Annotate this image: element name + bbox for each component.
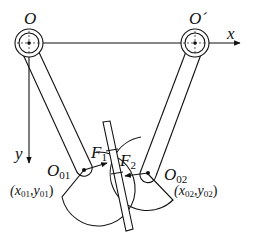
coord2-sub1: 02 (185, 189, 194, 199)
label-y-axis: y (15, 145, 23, 162)
coord1-sub1: 01 (21, 189, 30, 199)
coord2-mid: ,y (194, 183, 204, 198)
pivot-o-joint (15, 29, 43, 57)
force-f1-arrow (84, 163, 107, 170)
right-link (140, 49, 203, 183)
pivot-o-prime-joint (181, 29, 209, 57)
coord2-close: ) (213, 183, 218, 198)
force1-main: F (91, 143, 101, 162)
force2-main: F (120, 151, 130, 170)
two-finger-gripper-diagram (0, 0, 254, 242)
pivot2-main: O (164, 165, 176, 184)
coord1-mid: ,y (30, 183, 40, 198)
force1-sub: 1 (101, 151, 107, 163)
label-pivot-o02: O02 (164, 166, 187, 185)
label-coord-02: (x02,y02) (174, 184, 217, 199)
coord1-sub2: 01 (40, 189, 49, 199)
label-pivot-o01: O01 (47, 162, 70, 181)
coord1-close: ) (49, 183, 54, 198)
label-origin-o-prime: O´ (189, 10, 207, 27)
coord2-sub2: 02 (204, 189, 213, 199)
pivot1-main: O (47, 161, 59, 180)
force-f2-arrow (125, 173, 148, 176)
coord1-open: (x (10, 183, 21, 198)
label-origin-o: O (24, 10, 36, 27)
label-force-f2: F2 (120, 152, 136, 171)
label-force-f1: F1 (91, 144, 107, 163)
force2-sub: 2 (130, 159, 136, 171)
pivot1-sub: 01 (59, 169, 70, 181)
left-link (21, 48, 92, 176)
label-coord-01: (x01,y01) (10, 184, 53, 199)
coord2-open: (x (174, 183, 185, 198)
label-x-axis: x (227, 25, 235, 42)
